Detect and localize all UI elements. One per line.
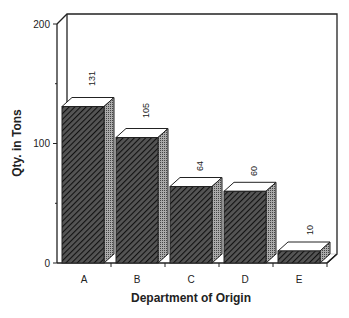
bars: 131 105 64 60 10 [62, 71, 330, 263]
x-tick-label: E [296, 274, 303, 285]
data-label: 10 [305, 225, 315, 235]
bar-C: 64 [170, 161, 222, 263]
bar-E: 10 [278, 225, 330, 263]
y-axis-title: Qty. in Tons [10, 109, 24, 177]
y-tick-label: 200 [33, 19, 50, 30]
x-tick-label: D [241, 274, 248, 285]
x-tick-label: C [187, 274, 194, 285]
x-tick-label: A [81, 274, 88, 285]
bar-B: 105 [116, 103, 168, 263]
data-label: 60 [249, 166, 259, 176]
x-axis-title: Department of Origin [131, 291, 251, 305]
bar-A: 131 [62, 71, 114, 263]
data-label: 131 [87, 71, 97, 86]
y-axis: 200 100 0 Qty. in Tons [10, 19, 57, 269]
bar-D: 60 [224, 166, 276, 263]
data-label: 105 [141, 103, 151, 118]
bar-chart: 200 100 0 Qty. in Tons A B C D E Departm… [0, 0, 349, 318]
y-tick-label: 0 [44, 258, 50, 269]
data-label: 64 [195, 161, 205, 171]
x-tick-label: B [134, 274, 141, 285]
y-tick-label: 100 [33, 138, 50, 149]
